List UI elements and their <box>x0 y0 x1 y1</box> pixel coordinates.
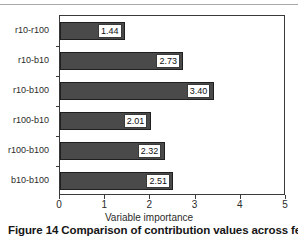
figure-page: r10-r100r10-b10r10-b100r100-b10r100-b100… <box>0 0 298 241</box>
bars-container: 1.442.733.402.012.322.51 <box>60 16 284 194</box>
y-axis-tick <box>56 76 60 77</box>
y-axis-category-labels: r10-r100r10-b10r10-b100r100-b10r100-b100… <box>0 15 53 191</box>
y-axis-category-label: r10-b10 <box>18 55 49 65</box>
y-axis-tick <box>56 46 60 47</box>
x-axis-title: Variable importance <box>0 212 298 223</box>
bar-row: 2.51 <box>60 172 286 190</box>
plot-area: 1.442.733.402.012.322.51 <box>59 15 285 195</box>
bar-value-label: 2.51 <box>146 174 170 188</box>
bar-row: 2.01 <box>60 112 286 130</box>
y-axis-tick <box>56 166 60 167</box>
bar-value-label: 2.73 <box>156 54 180 68</box>
y-axis-tick <box>56 106 60 107</box>
x-axis-tick-label: 4 <box>237 199 243 210</box>
x-axis-tick-label: 2 <box>147 199 153 210</box>
bar-row: 2.73 <box>60 52 286 70</box>
x-axis-tick-label: 0 <box>56 199 62 210</box>
figure-caption: Figure 14 Comparison of contribution val… <box>8 224 298 236</box>
x-axis-tick-label: 5 <box>282 199 288 210</box>
y-axis-category-label: r100-b100 <box>8 145 49 155</box>
x-axis-tick-label: 1 <box>101 199 107 210</box>
y-axis-category-label: b10-b100 <box>11 175 49 185</box>
y-axis-tick <box>56 136 60 137</box>
bar-value-label: 2.01 <box>124 114 148 128</box>
x-axis: 012345 <box>59 195 285 213</box>
y-axis-category-label: r10-b100 <box>13 85 49 95</box>
x-axis-tick-label: 3 <box>192 199 198 210</box>
bar-row: 1.44 <box>60 22 286 40</box>
y-axis-category-label: r100-b10 <box>13 115 49 125</box>
bar-row: 2.32 <box>60 142 286 160</box>
bar-value-label: 3.40 <box>187 84 211 98</box>
bar-value-label: 1.44 <box>98 24 122 38</box>
y-axis-category-label: r10-r100 <box>15 25 49 35</box>
bar-value-label: 2.32 <box>138 144 162 158</box>
page-top-rule <box>0 4 298 5</box>
bar-chart-figure: r10-r100r10-b10r10-b100r100-b10r100-b100… <box>0 6 298 206</box>
bar-row: 3.40 <box>60 82 286 100</box>
